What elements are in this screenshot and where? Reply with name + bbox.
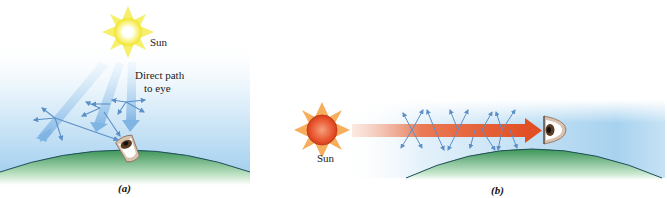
panel-a-illustration <box>0 0 250 198</box>
panel-a-overhead-sun: Sun Direct path to eye (a) <box>0 0 250 198</box>
direct-path-label-line2: to eye <box>144 82 171 95</box>
panel-b-illustration <box>270 0 667 198</box>
sun-label: Sun <box>317 152 334 165</box>
direct-path-label-line1: Direct path <box>135 69 184 82</box>
panel-caption-b: (b) <box>491 184 504 196</box>
panel-b-sunset: Sun (b) <box>270 0 667 198</box>
sun-label: Sun <box>150 36 167 49</box>
sun-icon <box>294 102 350 158</box>
panel-caption-a: (a) <box>118 182 131 194</box>
